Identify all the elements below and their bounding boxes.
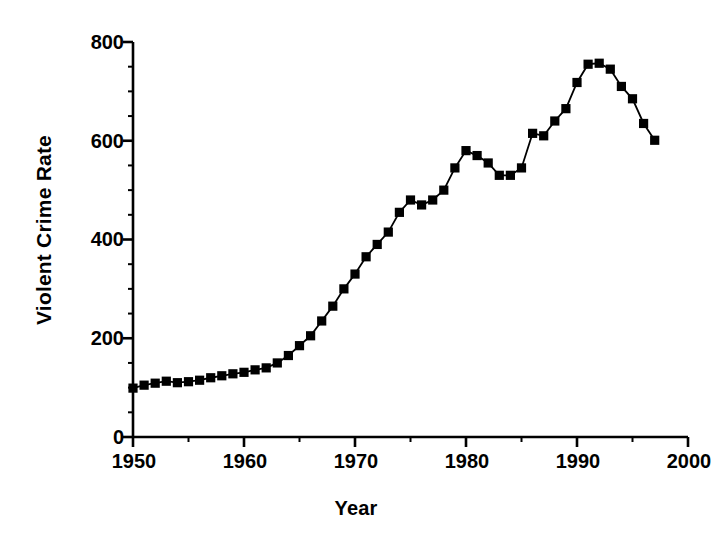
data-point-marker xyxy=(439,186,448,195)
data-point-marker xyxy=(362,252,371,261)
data-point-marker xyxy=(539,131,548,140)
data-point-marker xyxy=(328,302,337,311)
data-point-marker xyxy=(384,227,393,236)
y-axis-label: Violent Crime Rate xyxy=(32,90,56,370)
data-point-marker xyxy=(151,379,160,388)
data-point-marker xyxy=(639,119,648,128)
x-axis-label: Year xyxy=(0,497,712,520)
data-point-marker xyxy=(561,104,570,113)
data-point-marker xyxy=(473,151,482,160)
data-point-marker xyxy=(228,369,237,378)
y-axis-ticks xyxy=(123,42,133,437)
data-point-marker xyxy=(128,384,137,393)
data-point-marker xyxy=(295,341,304,350)
data-point-marker xyxy=(617,82,626,91)
x-tick-label-1950: 1950 xyxy=(94,450,174,473)
data-point-marker xyxy=(517,163,526,172)
data-point-marker xyxy=(417,200,426,209)
data-point-marker xyxy=(162,377,171,386)
data-point-marker xyxy=(273,358,282,367)
data-point-marker xyxy=(428,195,437,204)
data-point-marker xyxy=(461,146,470,155)
axis-spines xyxy=(133,42,688,437)
data-point-marker xyxy=(339,284,348,293)
x-tick-label-1970: 1970 xyxy=(316,450,396,473)
data-point-marker xyxy=(595,59,604,68)
data-point-marker xyxy=(528,129,537,138)
data-point-marker xyxy=(450,163,459,172)
y-tick-label-800: 800 xyxy=(66,31,124,54)
data-point-marker xyxy=(195,376,204,385)
data-point-marker xyxy=(239,368,248,377)
y-tick-label-200: 200 xyxy=(66,327,124,350)
data-point-marker xyxy=(373,240,382,249)
data-point-marker xyxy=(650,136,659,145)
data-point-marker xyxy=(262,363,271,372)
data-point-marker xyxy=(495,171,504,180)
data-point-marker xyxy=(395,208,404,217)
data-point-marker xyxy=(284,351,293,360)
data-line-violent-crime-rate xyxy=(133,63,655,388)
data-point-marker xyxy=(606,65,615,74)
y-tick-label-0: 0 xyxy=(66,426,124,449)
data-point-marker xyxy=(572,78,581,87)
data-point-marker xyxy=(251,365,260,374)
data-point-marker xyxy=(350,269,359,278)
x-tick-label-1980: 1980 xyxy=(427,450,507,473)
data-point-marker xyxy=(173,378,182,387)
chart-figure: Violent Crime Rate Year 800 600 400 200 … xyxy=(0,0,712,539)
x-tick-label-1990: 1990 xyxy=(538,450,618,473)
data-point-marker xyxy=(484,158,493,167)
data-point-marker xyxy=(206,373,215,382)
data-markers-violent-crime-rate xyxy=(128,59,659,393)
x-tick-label-2000: 2000 xyxy=(649,450,712,473)
data-point-marker xyxy=(584,60,593,69)
x-axis-ticks xyxy=(133,437,688,447)
data-point-marker xyxy=(217,371,226,380)
data-point-marker xyxy=(140,381,149,390)
data-point-marker xyxy=(306,331,315,340)
x-tick-label-1960: 1960 xyxy=(205,450,285,473)
data-point-marker xyxy=(406,195,415,204)
y-tick-label-600: 600 xyxy=(66,130,124,153)
data-point-marker xyxy=(506,171,515,180)
data-point-marker xyxy=(628,94,637,103)
y-tick-label-400: 400 xyxy=(66,228,124,251)
data-point-marker xyxy=(550,116,559,125)
data-point-marker xyxy=(184,377,193,386)
data-point-marker xyxy=(317,316,326,325)
